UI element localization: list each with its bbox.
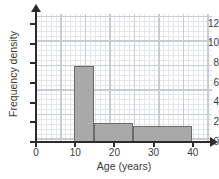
x-axis-tick-label: 20 xyxy=(102,147,126,158)
y-axis-tick xyxy=(30,43,35,45)
y-axis-tick-label: 12 xyxy=(191,19,219,29)
x-axis-tick-label: 0 xyxy=(24,147,48,158)
x-axis-tick-label: 40 xyxy=(181,147,205,158)
y-axis-tick-label: 8 xyxy=(191,58,219,68)
y-axis-line xyxy=(35,10,37,143)
y-axis-title: Frequency density xyxy=(7,10,19,138)
x-axis-line xyxy=(35,141,215,143)
y-axis-tick xyxy=(30,62,35,64)
y-axis-arrow-icon xyxy=(31,4,41,12)
y-axis-tick xyxy=(30,23,35,25)
plot-area-grid xyxy=(36,14,212,141)
x-axis-title: Age (years) xyxy=(36,160,212,172)
y-axis-tick-label: 2 xyxy=(191,117,219,127)
x-axis-tick-label: 30 xyxy=(142,147,166,158)
y-axis-tick xyxy=(30,102,35,104)
y-axis-tick xyxy=(30,82,35,84)
y-axis-tick-label: 4 xyxy=(191,97,219,107)
histogram-chart: 0 2 4 6 8 10 12 0 10 20 30 40 Age (years… xyxy=(0,0,219,179)
y-axis-tick-label: 0 xyxy=(191,137,219,147)
y-axis-tick-label: 6 xyxy=(191,78,219,88)
y-axis-tick xyxy=(30,121,35,123)
y-axis-tick-label: 10 xyxy=(191,38,219,48)
x-axis-tick-label: 10 xyxy=(63,147,87,158)
histogram-bar xyxy=(74,66,94,143)
